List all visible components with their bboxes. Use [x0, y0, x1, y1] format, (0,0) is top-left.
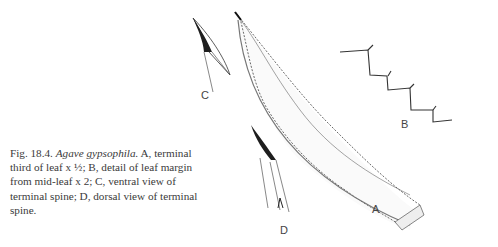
label-b: B [401, 118, 408, 130]
figure-number: Fig. 18.4. [10, 147, 53, 159]
species-name: Agave gypsophila. [56, 147, 139, 159]
label-c: C [201, 89, 209, 101]
figure-caption: Fig. 18.4. Agave gypsophila. A, terminal… [10, 146, 210, 217]
label-a: A [372, 203, 379, 215]
panel-b-margin-detail [340, 45, 452, 122]
panel-a-leaf [235, 12, 424, 230]
panel-c-ventral-spine [193, 18, 230, 92]
label-d: D [280, 224, 288, 236]
